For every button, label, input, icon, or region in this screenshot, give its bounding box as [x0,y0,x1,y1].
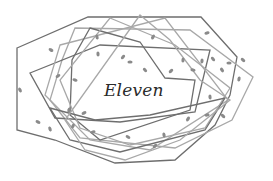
leaf-mark-icon [96,51,100,56]
leaf-mark-icon [200,58,204,63]
illustration-title: Eleven [104,80,164,100]
leaf-mark-icon [210,56,216,62]
leaf-mark-icon [125,134,131,139]
leaf-mark-icon [204,31,210,35]
leaf-mark-icon [17,87,22,93]
leaf-mark-icon [185,116,191,122]
leaf-mark-icon [219,67,225,73]
leaf-mark-icon [142,67,148,73]
leaf-mark-icon [208,94,212,99]
leaf-mark-icon [48,126,53,132]
leaf-mark-icon [81,110,87,115]
leaf-mark-icon [72,78,78,82]
leaf-mark-icon [120,54,126,60]
leaf-mark-icon [168,68,174,74]
leaf-mark-icon [226,61,231,64]
leaf-mark-icon [35,120,41,125]
leaf-mark-icon [237,76,241,82]
leaf-mark-icon [127,60,132,63]
leaf-mark-icon [240,57,246,63]
leaf-mark-icon [48,47,54,52]
